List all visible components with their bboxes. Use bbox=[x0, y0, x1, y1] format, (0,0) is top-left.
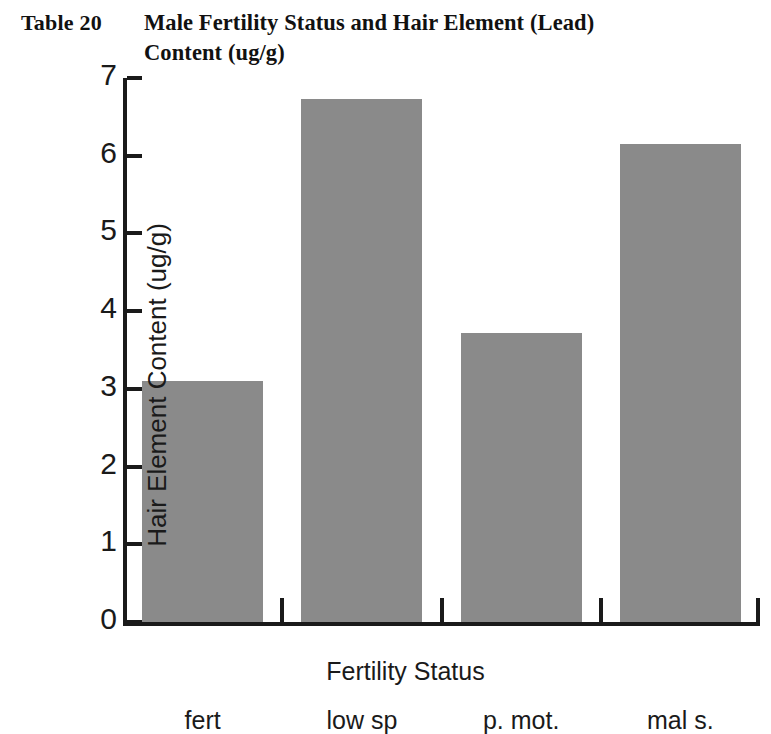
y-axis-tick: 1 bbox=[127, 542, 142, 546]
y-axis-tick: 2 bbox=[127, 465, 142, 469]
y-axis-tick-label: 6 bbox=[100, 138, 117, 168]
y-axis-tick-label: 3 bbox=[100, 371, 117, 401]
bar-chart-plot-area: 01234567 fertlow spp. mot.mal s. Hair El… bbox=[123, 78, 760, 622]
bar bbox=[461, 333, 582, 622]
x-axis-tick-label: p. mot. bbox=[442, 706, 601, 734]
y-axis-tick-label: 7 bbox=[100, 60, 117, 90]
x-axis-title-text: Fertility Status bbox=[326, 657, 484, 685]
bar bbox=[620, 144, 741, 622]
x-axis-tick bbox=[756, 598, 760, 622]
y-axis-title: Hair Element Content (ug/g) bbox=[142, 65, 172, 705]
x-axis-tick bbox=[280, 598, 284, 622]
x-axis-title: Fertility Status bbox=[0, 657, 771, 685]
page-title: Male Fertility Status and Hair Element (… bbox=[144, 8, 744, 68]
x-axis-tick-label: mal s. bbox=[601, 706, 760, 734]
y-axis-tick: 0 bbox=[127, 620, 142, 624]
y-axis-tick: 7 bbox=[127, 76, 142, 80]
x-axis-tick-label: fert bbox=[123, 706, 282, 734]
y-axis-tick-label: 2 bbox=[100, 449, 117, 479]
table-number-label: Table 20 bbox=[21, 10, 102, 36]
y-axis-tick-label: 4 bbox=[100, 293, 117, 323]
y-axis-tick-label: 5 bbox=[100, 215, 117, 245]
x-axis-tick-label: low sp bbox=[282, 706, 441, 734]
y-axis-tick: 3 bbox=[127, 387, 142, 391]
chart-title-line-2: Content (ug/g) bbox=[144, 40, 285, 65]
chart-title-line-1: Male Fertility Status and Hair Element (… bbox=[144, 10, 594, 35]
y-axis-tick-label: 1 bbox=[100, 526, 117, 556]
y-axis-tick: 4 bbox=[127, 309, 142, 313]
y-axis-tick: 6 bbox=[127, 154, 142, 158]
x-axis-line bbox=[123, 622, 760, 626]
y-axis-tick: 5 bbox=[127, 231, 142, 235]
x-axis-tick bbox=[599, 598, 603, 622]
x-axis-tick bbox=[440, 598, 444, 622]
y-axis-tick-label: 0 bbox=[100, 604, 117, 634]
bar bbox=[301, 99, 422, 622]
